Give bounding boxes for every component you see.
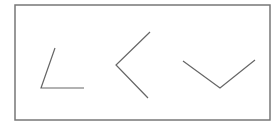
angle-2-right bbox=[116, 32, 150, 98]
angles-diagram bbox=[0, 0, 280, 123]
angle-1-acute bbox=[41, 48, 84, 88]
angle-3-obtuse bbox=[183, 60, 255, 88]
diagram-frame bbox=[15, 5, 270, 120]
